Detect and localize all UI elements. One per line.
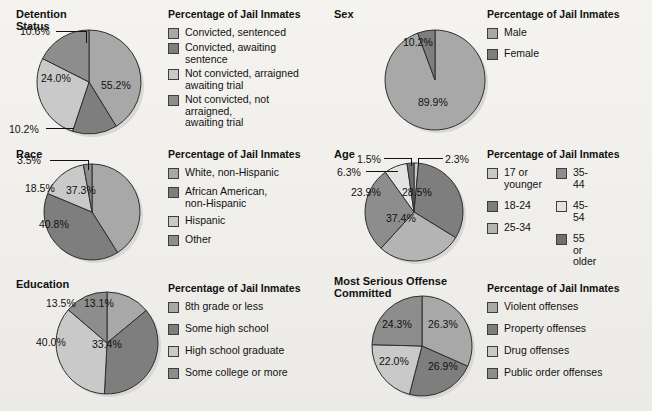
legend-item[interactable]: Some college or more <box>168 367 328 379</box>
legend-label: High school graduate <box>185 345 284 357</box>
legend-swatch-icon <box>487 346 498 357</box>
legend-item[interactable]: Violent offenses <box>487 301 647 313</box>
legend-label: Violent offenses <box>504 301 578 313</box>
legend-item[interactable]: 18-24 <box>487 200 542 212</box>
pct-label-age-1: 28.5% <box>402 186 432 198</box>
legend-label: Female <box>504 48 539 60</box>
pct-label-race-3: 3.5% <box>17 154 41 166</box>
pct-label-offense-3: 24.3% <box>382 318 412 330</box>
leader-line-age-4h <box>366 171 398 172</box>
legend-title-race: Percentage of Jail Inmates <box>168 148 300 160</box>
legend-item[interactable]: 8th grade or less <box>168 301 328 313</box>
legend-swatch-icon <box>556 234 567 245</box>
legend-item[interactable]: Public order offenses <box>487 367 647 379</box>
leader-line-detention-1h <box>46 128 74 129</box>
pie-most-serious-offense <box>366 292 482 408</box>
pct-label-sex-1: 10.2% <box>403 36 433 48</box>
legend-detention-status: Convicted, sentenced Convicted, awaiting… <box>168 27 318 132</box>
legend-race: White, non-Hispanic African American, no… <box>168 167 318 249</box>
legend-item[interactable]: 35-44 <box>556 167 596 190</box>
leader-line-detention-3h <box>56 31 86 32</box>
legend-title-sex: Percentage of Jail Inmates <box>487 8 619 20</box>
legend-age-column-left: 17 or younger 18-24 25-34 <box>487 167 542 271</box>
pct-label-race-0: 37.3% <box>66 184 96 196</box>
legend-label: Not convicted, arraigned awaiting trial <box>185 68 299 91</box>
legend-item[interactable]: 17 or younger <box>487 167 542 190</box>
legend-swatch-icon <box>168 324 179 335</box>
legend-item[interactable]: Male <box>487 27 637 39</box>
legend-label: 45-54 <box>573 200 596 223</box>
pct-label-offense-1: 26.9% <box>428 360 458 372</box>
legend-most-serious-offense: Violent offenses Property offenses Drug … <box>487 301 647 382</box>
legend-item[interactable]: Drug offenses <box>487 345 647 357</box>
legend-label: 55 or older <box>573 233 596 268</box>
legend-title-education: Percentage of Jail Inmates <box>168 282 300 294</box>
legend-swatch-icon <box>487 168 498 179</box>
legend-swatch-icon <box>487 368 498 379</box>
legend-item[interactable]: Not convicted, not arraigned, awaiting t… <box>168 94 318 129</box>
legend-item[interactable]: Property offenses <box>487 323 647 335</box>
legend-label: African American, non-Hispanic <box>185 186 267 209</box>
legend-item[interactable]: 25-34 <box>487 222 542 234</box>
legend-education: 8th grade or less Some high school High … <box>168 301 328 382</box>
legend-label: White, non-Hispanic <box>185 167 279 179</box>
legend-label: Convicted, sentenced <box>185 27 286 39</box>
legend-item[interactable]: Female <box>487 48 637 60</box>
legend-label: Convicted, awaiting sentence <box>185 42 318 65</box>
legend-swatch-icon <box>168 346 179 357</box>
legend-swatch-icon <box>487 49 498 60</box>
legend-swatch-icon <box>487 302 498 313</box>
leader-line-detention-3v <box>86 31 87 43</box>
legend-title-most-serious-offense: Percentage of Jail Inmates <box>487 282 619 294</box>
legend-label: Some college or more <box>185 367 288 379</box>
legend-item[interactable]: Convicted, sentenced <box>168 27 318 39</box>
pie-svg-sex <box>378 24 496 136</box>
leader-line-age-5h <box>418 158 443 159</box>
legend-item[interactable]: Some high school <box>168 323 328 335</box>
legend-swatch-icon <box>168 302 179 313</box>
pct-label-detention-0: 55.2% <box>101 79 131 91</box>
leader-line-race-3v <box>88 160 89 170</box>
legend-title-age: Percentage of Jail Inmates <box>487 148 619 160</box>
legend-swatch-icon <box>487 201 498 212</box>
pie-svg-age <box>358 160 474 270</box>
leader-line-age-0v <box>411 158 412 166</box>
legend-label: 25-34 <box>504 222 531 234</box>
legend-item[interactable]: 55 or older <box>556 233 596 268</box>
legend-item[interactable]: White, non-Hispanic <box>168 167 318 179</box>
legend-label: Some high school <box>185 323 268 335</box>
legend-item[interactable]: Other <box>168 234 318 246</box>
legend-item[interactable]: Not convicted, arraigned awaiting trial <box>168 68 318 91</box>
legend-item[interactable]: 45-54 <box>556 200 596 223</box>
legend-age-column-right: 35-44 45-54 55 or older <box>556 167 596 271</box>
legend-swatch-icon <box>168 216 179 227</box>
legend-item[interactable]: Convicted, awaiting sentence <box>168 42 318 65</box>
legend-item[interactable]: High school graduate <box>168 345 328 357</box>
legend-swatch-icon <box>487 28 498 39</box>
pct-label-education-3: 13.5% <box>46 297 76 309</box>
legend-swatch-icon <box>168 235 179 246</box>
legend-swatch-icon <box>168 95 179 106</box>
pie-chart-figure: Detention Status 55.2% 10.2% 24.0% 10.6%… <box>0 0 652 411</box>
legend-sex: Male Female <box>487 27 637 63</box>
legend-swatch-icon <box>168 28 179 39</box>
legend-label: Hispanic <box>185 215 225 227</box>
pct-label-detention-3: 10.6% <box>20 25 50 37</box>
pct-label-education-1: 33.4% <box>92 338 122 350</box>
legend-label: Other <box>185 234 211 246</box>
leader-line-age-5v <box>418 158 419 166</box>
legend-swatch-icon <box>168 43 179 54</box>
pct-label-age-3: 23.9% <box>351 186 381 198</box>
pct-label-age-0: 1.5% <box>357 153 381 165</box>
leader-line-age-0h <box>384 158 411 159</box>
legend-item[interactable]: African American, non-Hispanic <box>168 186 318 209</box>
legend-swatch-icon <box>487 324 498 335</box>
pct-label-detention-2: 24.0% <box>41 72 71 84</box>
pct-label-age-4: 6.3% <box>337 166 361 178</box>
legend-age: 17 or younger 18-24 25-34 35-44 <box>487 167 596 271</box>
pct-label-detention-1: 10.2% <box>9 123 39 135</box>
legend-title-detention: Percentage of Jail Inmates <box>168 8 300 20</box>
legend-swatch-icon <box>168 168 179 179</box>
legend-swatch-icon <box>556 201 567 212</box>
legend-item[interactable]: Hispanic <box>168 215 318 227</box>
